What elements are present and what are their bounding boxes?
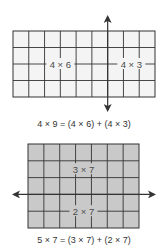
- equation-caption-top: 4 × 9 = (4 × 6) + (4 × 3): [37, 119, 130, 129]
- part-label-2x7: 2 × 7: [73, 206, 94, 217]
- diagram-canvas: 4 × 6 4 × 3 4 × 9 = (4 × 6) + (4 × 3) 3 …: [0, 0, 168, 252]
- part-label-3x7: 3 × 7: [73, 164, 94, 175]
- part-label-4x6: 4 × 6: [50, 59, 71, 70]
- part-label-4x3: 4 × 3: [121, 59, 142, 70]
- equation-caption-bottom: 5 × 7 = (3 × 7) + (2 × 7): [37, 235, 130, 245]
- top-array: 4 × 6 4 × 3 4 × 9 = (4 × 6) + (4 × 3): [13, 17, 155, 129]
- bottom-array: 3 × 7 2 × 7 5 × 7 = (3 × 7) + (2 × 7): [14, 144, 154, 245]
